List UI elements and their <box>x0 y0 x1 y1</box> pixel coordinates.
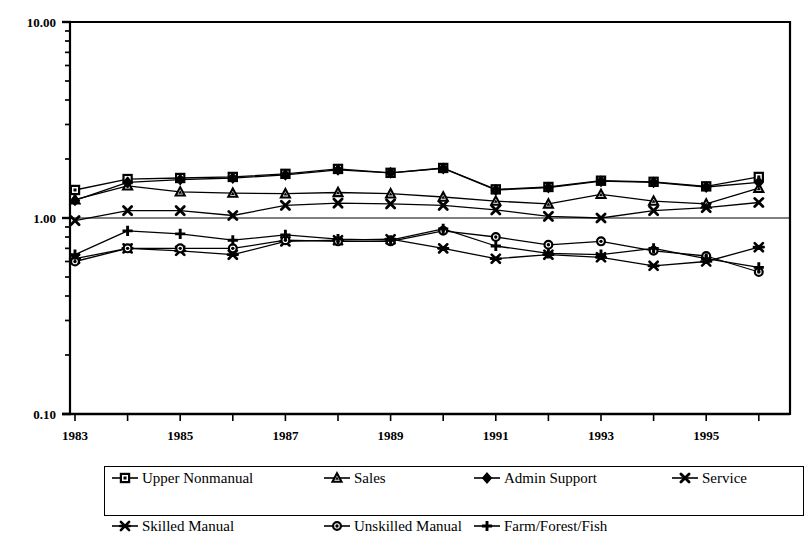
series-upper-nonmanual <box>71 164 763 194</box>
x-axis-tick-labels: 1983198519871989199119931995 <box>62 428 720 443</box>
data-point-marker <box>491 241 501 251</box>
line-chart-svg: 10.001.000.10 19831985198719891991199319… <box>0 0 810 450</box>
legend-item-farm-forest-fish[interactable]: Farm/Forest/Fish <box>473 518 607 534</box>
legend-marker-star-filled <box>111 518 139 534</box>
legend-marker-slot <box>473 518 501 534</box>
data-point-marker <box>176 187 185 195</box>
x-tick-label: 1983 <box>62 428 89 443</box>
data-point-marker <box>281 189 290 197</box>
data-point-marker <box>597 237 605 245</box>
data-point-marker <box>754 243 764 251</box>
data-point-marker <box>545 241 553 249</box>
legend-marker-slot <box>473 470 501 486</box>
x-tick-label: 1989 <box>378 428 405 443</box>
data-point-marker <box>544 199 553 207</box>
data-point-marker <box>228 188 237 196</box>
legend-label: Unskilled Manual <box>354 518 462 534</box>
legend-item-service[interactable]: Service <box>671 470 747 486</box>
legend-marker-plus-cross <box>473 518 501 534</box>
data-point-marker <box>124 244 132 252</box>
series-skilled-manual <box>70 235 764 270</box>
chart-legend: Upper NonmanualSalesAdmin SupportService… <box>104 466 804 516</box>
legend-marker-diamond-filled <box>473 470 501 486</box>
legend-marker-slot <box>111 518 139 534</box>
data-point-marker <box>386 189 395 197</box>
y-axis-tick-labels: 10.001.000.10 <box>27 15 56 422</box>
legend-item-skilled-manual[interactable]: Skilled Manual <box>111 518 234 534</box>
data-point-marker <box>649 262 659 270</box>
data-point-marker <box>438 244 448 252</box>
legend-label: Skilled Manual <box>142 518 234 534</box>
legend-label: Service <box>702 470 747 486</box>
legend-marker-square-open <box>111 470 139 486</box>
series-service <box>71 198 763 224</box>
legend-marker-x-cross <box>671 470 699 486</box>
legend-marker-slot <box>323 470 351 486</box>
y-tick-label: 1.00 <box>33 211 56 226</box>
legend-marker-slot <box>111 470 139 486</box>
x-tick-label: 1991 <box>483 428 509 443</box>
x-tick-label: 1995 <box>693 428 720 443</box>
data-point-marker <box>491 196 500 204</box>
x-tick-label: 1985 <box>167 428 194 443</box>
x-tick-label: 1987 <box>272 428 299 443</box>
legend-item-upper-nonmanual[interactable]: Upper Nonmanual <box>111 470 253 486</box>
legend-item-admin-support[interactable]: Admin Support <box>473 470 597 486</box>
data-point-marker <box>491 255 501 263</box>
data-point-marker <box>175 229 185 239</box>
data-point-marker <box>334 188 343 196</box>
legend-marker-slot <box>323 518 351 534</box>
y-tick-label: 0.10 <box>33 407 56 422</box>
data-point-marker <box>176 244 184 252</box>
legend-marker-circle-filled <box>323 518 351 534</box>
data-point-marker <box>439 192 448 200</box>
y-tick-label: 10.00 <box>27 15 56 30</box>
legend-label: Upper Nonmanual <box>142 470 253 486</box>
data-point-marker <box>123 226 133 236</box>
legend-item-unskilled-manual[interactable]: Unskilled Manual <box>323 518 462 534</box>
series-sales <box>71 181 764 208</box>
chart-series-group <box>70 164 764 276</box>
x-tick-label: 1993 <box>588 428 615 443</box>
data-point-marker <box>492 233 500 241</box>
chart-plot-area: 10.001.000.10 19831985198719891991199319… <box>0 0 810 450</box>
legend-row: Skilled ManualUnskilled ManualFarm/Fores… <box>105 491 803 515</box>
data-point-marker <box>649 196 658 204</box>
data-point-marker <box>597 190 606 198</box>
legend-label: Admin Support <box>504 470 597 486</box>
legend-marker-triangle-open <box>323 470 351 486</box>
chart-tick-marks <box>62 22 759 421</box>
legend-label: Farm/Forest/Fish <box>504 518 607 534</box>
legend-marker-slot <box>671 470 699 486</box>
data-point-marker <box>229 244 237 252</box>
data-point-marker <box>228 235 238 245</box>
legend-row: Upper NonmanualSalesAdmin SupportService <box>105 467 803 491</box>
legend-item-sales[interactable]: Sales <box>323 470 386 486</box>
legend-label: Sales <box>354 470 386 486</box>
